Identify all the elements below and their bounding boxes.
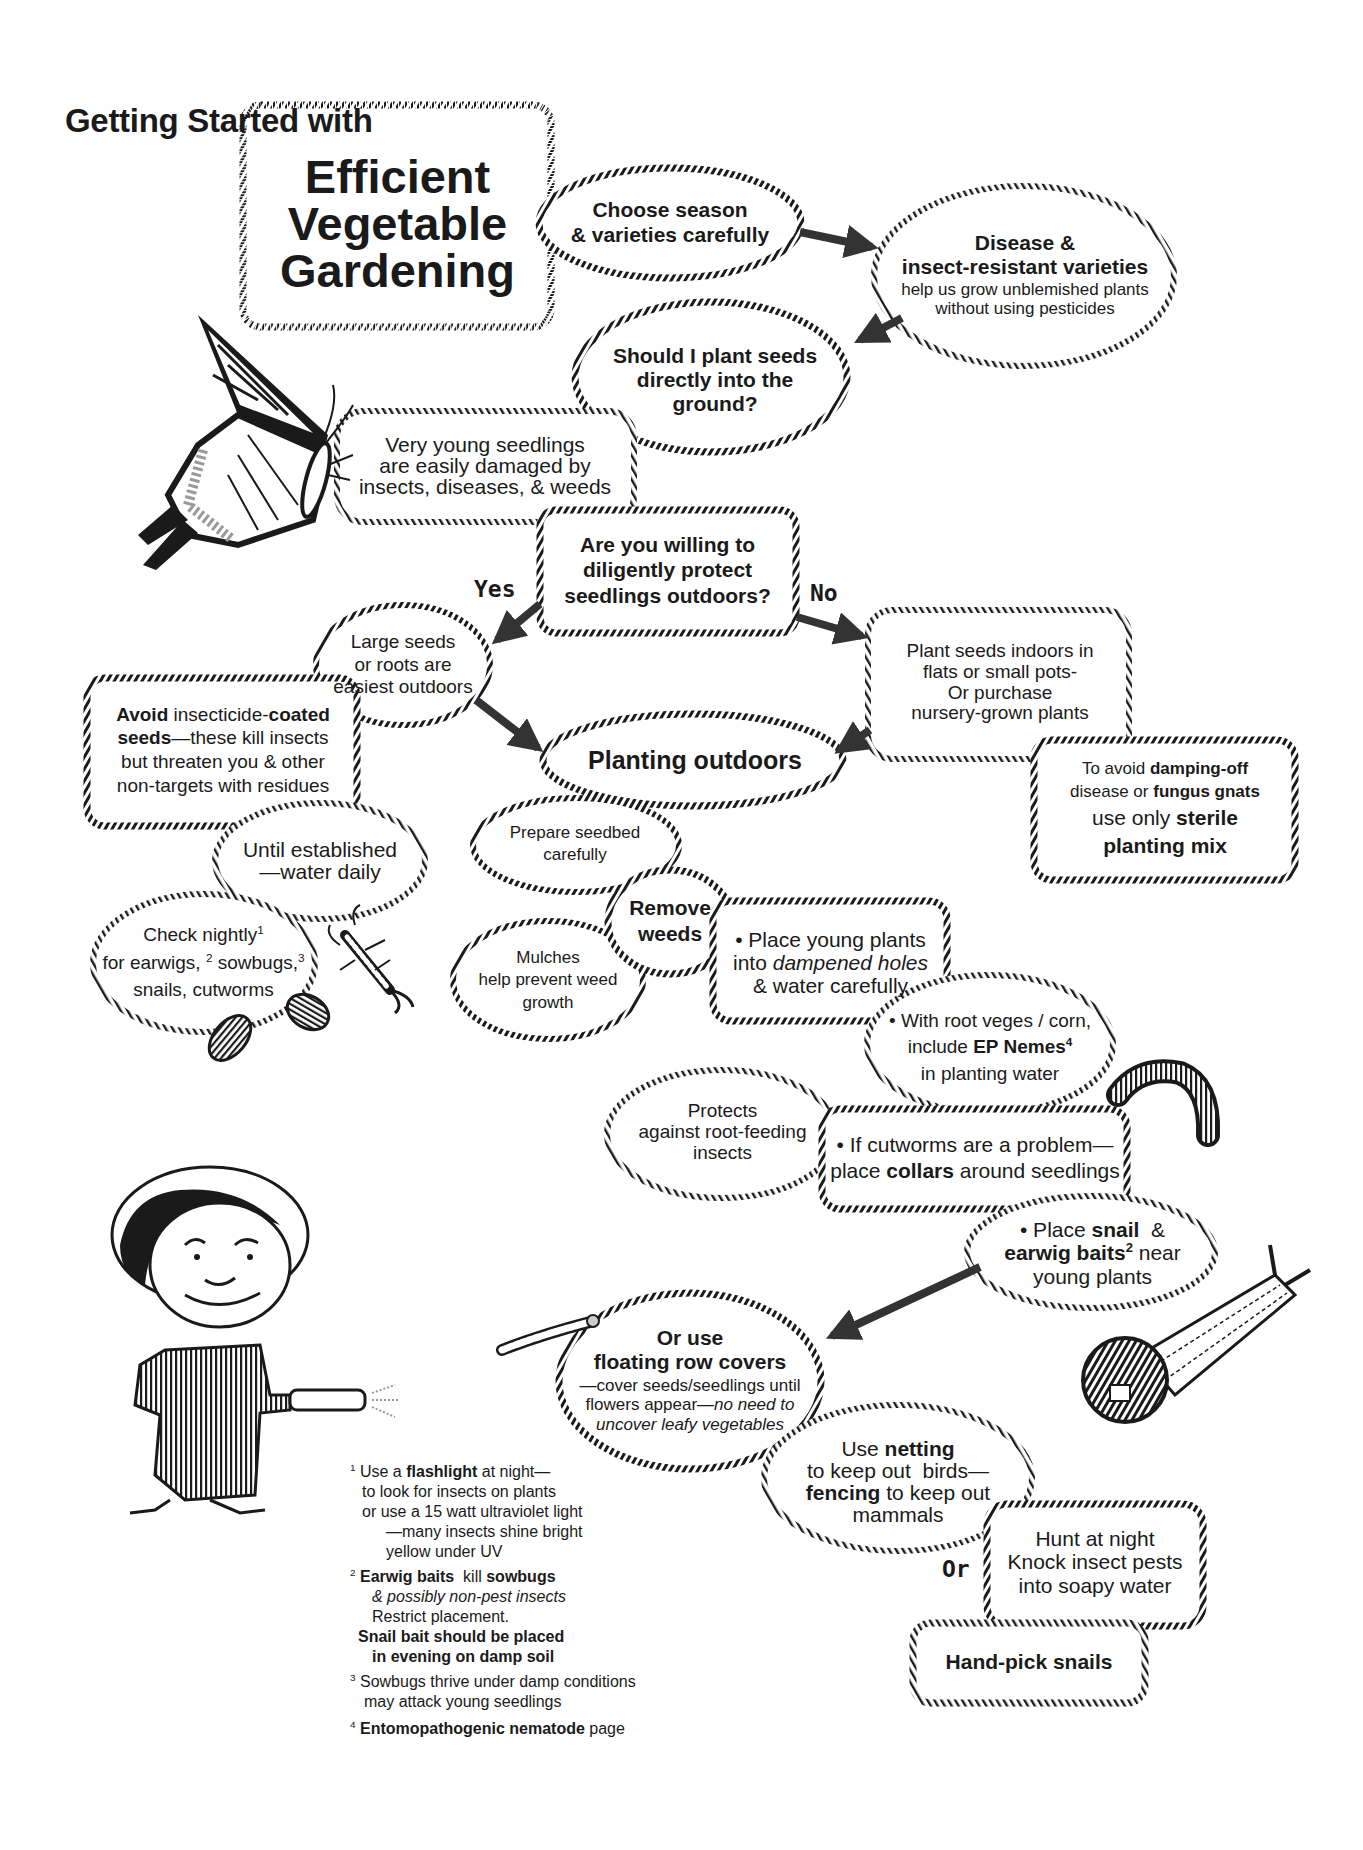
footnote-3: 3 Sowbugs thrive under damp conditions m…	[350, 1672, 680, 1712]
yes-label: Yes	[474, 576, 516, 602]
node-text: Until established	[243, 839, 397, 861]
node-text: Protects	[688, 1101, 758, 1122]
node-text: nursery-grown plants	[911, 703, 1088, 724]
node-remove-weeds: Remove weeds	[612, 893, 728, 949]
node-text: help prevent weed	[479, 969, 618, 991]
node-text: use only sterile	[1092, 804, 1238, 832]
node-text: uncover leafy vegetables	[596, 1415, 784, 1435]
node-text: but threaten you & other	[121, 750, 325, 774]
node-until-established: Until established —water daily	[225, 835, 415, 887]
node-hand-pick-snails: Hand-pick snails	[918, 1640, 1140, 1684]
node-text: into soapy water	[1019, 1574, 1172, 1597]
node-text: earwig baits2 near	[1004, 1241, 1181, 1265]
arrow-snail-to-covers	[832, 1267, 980, 1336]
footnotes: 1 Use a flashlight at night— to look for…	[350, 1462, 680, 1739]
node-text: insects, diseases, & weeds	[359, 476, 611, 497]
node-text: are easily damaged by	[379, 455, 590, 476]
node-avoid-coated-seeds: Avoid insecticide-coated seeds—these kil…	[92, 700, 354, 800]
node-text: against root-feeding	[639, 1122, 807, 1143]
node-should-plant: Should I plant seeds directly into the g…	[590, 335, 840, 425]
arrow-choose-to-disease	[800, 232, 872, 247]
title-line: Efficient	[305, 153, 490, 200]
node-text: Hunt at night	[1035, 1527, 1154, 1550]
node-choose-season: Choose season & varieties carefully	[545, 185, 795, 260]
node-text: Check nightly1	[143, 921, 264, 949]
page-title: Efficient Vegetable Gardening	[245, 148, 550, 298]
page-subtitle: Getting Started with	[65, 102, 373, 140]
node-large-seeds: Large seeds or roots are easiest outdoor…	[318, 625, 488, 705]
node-text: ground?	[672, 392, 757, 416]
node-text: help us grow unblemished plants	[901, 280, 1149, 300]
node-text: or roots are	[354, 654, 451, 677]
node-check-nightly: Check nightly1 for earwigs, 2 sowbugs,3 …	[96, 920, 311, 1005]
sowbug-icon	[201, 1008, 259, 1068]
node-very-young: Very young seedlings are easily damaged …	[345, 425, 625, 505]
node-text: non-targets with residues	[117, 774, 329, 798]
node-text: to keep out birds—	[807, 1460, 989, 1482]
or-label: Or	[942, 1556, 970, 1582]
arrow-yes-to-large	[497, 604, 540, 640]
node-text: Large seeds	[351, 631, 456, 654]
node-text: • If cutworms are a problem—	[837, 1132, 1114, 1157]
cutworm-icon	[1118, 1071, 1208, 1135]
node-text: into dampened holes	[733, 951, 928, 974]
node-text: without using pesticides	[935, 299, 1115, 319]
node-disease-resistant: Disease & insect-resistant varieties hel…	[875, 215, 1175, 335]
node-text: • Place young plants	[735, 928, 926, 951]
node-text: & varieties carefully	[571, 223, 769, 247]
node-place-snail-baits: • Place snail & earwig baits2 near young…	[985, 1218, 1200, 1288]
node-text: To avoid damping-off	[1082, 758, 1248, 781]
node-text: growth	[522, 992, 573, 1014]
node-text: Avoid insecticide-coated	[116, 703, 330, 727]
node-text: Plant seeds indoors in	[907, 641, 1094, 662]
node-text: Prepare seedbed	[510, 822, 640, 844]
node-text: place collars around seedlings	[830, 1158, 1120, 1183]
node-text: in planting water	[921, 1061, 1059, 1088]
node-text: Or use	[657, 1326, 724, 1350]
title-line: Gardening	[280, 247, 515, 294]
node-text: floating row covers	[594, 1350, 787, 1374]
node-hunt-at-night: Hunt at night Knock insect pests into so…	[995, 1522, 1195, 1602]
node-floating-row-covers: Or use floating row covers —cover seeds/…	[575, 1320, 805, 1440]
node-text: & water carefully	[753, 974, 908, 997]
node-text: young plants	[1033, 1265, 1152, 1289]
footnote-4: 4 Entomopathogenic nematode page	[350, 1719, 680, 1739]
node-text: easiest outdoors	[333, 676, 472, 699]
node-place-young-plants: • Place young plants into dampened holes…	[718, 925, 943, 1000]
node-text: Knock insect pests	[1007, 1550, 1182, 1573]
node-text: snails, cutworms	[133, 976, 273, 1004]
node-text: insects	[693, 1143, 752, 1164]
arrow-no-to-indoors	[797, 617, 862, 636]
node-text: for earwigs, 2 sowbugs,3	[102, 949, 304, 977]
node-text: Disease &	[975, 231, 1075, 255]
node-text: include EP Nemes4	[908, 1034, 1073, 1061]
node-text: disease or fungus gnats	[1070, 781, 1260, 804]
node-text: mammals	[852, 1504, 943, 1526]
node-text: Choose season	[592, 198, 747, 222]
node-text: flowers appear—no need to	[586, 1395, 795, 1415]
node-text: seedlings outdoors?	[564, 583, 771, 608]
arrow-indoors-to-planting	[840, 730, 870, 750]
node-cutworm-collars: • If cutworms are a problem— place colla…	[826, 1130, 1124, 1185]
node-text: • Place snail &	[1020, 1218, 1165, 1242]
node-protects: Protects against root-feeding insects	[620, 1100, 825, 1165]
node-text: directly into the	[637, 368, 793, 392]
node-text: seeds—these kill insects	[117, 726, 328, 750]
arrow-large-to-planting	[476, 700, 538, 748]
node-plant-indoors: Plant seeds indoors in flats or small po…	[875, 635, 1125, 730]
footnote-2: 2 Earwig baits kill sowbugs & possibly n…	[350, 1567, 680, 1667]
node-text: carefully	[543, 844, 606, 866]
node-text: flats or small pots-	[923, 662, 1077, 683]
node-text: Are you willing to	[580, 532, 755, 557]
node-text: planting mix	[1103, 832, 1227, 860]
node-text: weeds	[638, 921, 702, 947]
node-text: Or purchase	[948, 683, 1053, 704]
node-text: Use netting	[841, 1438, 954, 1460]
node-willing: Are you willing to diligently protect se…	[545, 520, 790, 620]
node-root-veges: • With root veges / corn, include EP Nem…	[880, 1010, 1100, 1085]
node-text: —water daily	[259, 861, 380, 883]
node-planting-outdoors: Planting outdoors	[555, 740, 835, 780]
node-text: Should I plant seeds	[613, 344, 817, 368]
node-text: Planting outdoors	[588, 746, 802, 775]
node-text: Hand-pick snails	[946, 1650, 1113, 1674]
